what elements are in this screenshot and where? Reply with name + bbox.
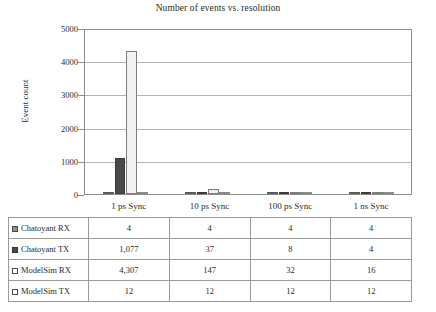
bar	[126, 51, 137, 194]
table-header-row: 1 ps Sync10 ps Sync100 ps Sync1 ns Sync	[9, 195, 412, 218]
series-legend-chatoyant-tx: Chatoyant TX	[9, 239, 89, 260]
bar	[267, 192, 278, 194]
table-cell: 147	[169, 260, 250, 281]
bar	[349, 192, 360, 194]
table-row: ModelSim RX4,3071473216	[9, 260, 412, 281]
series-label: Chatoyant RX	[21, 223, 70, 233]
bar-group	[167, 30, 249, 194]
y-tick-label: 5000	[32, 24, 78, 34]
bar	[115, 158, 126, 194]
bar	[208, 189, 219, 194]
table-cell: 4	[331, 239, 412, 260]
series-legend-chatoyant-rx: Chatoyant RX	[9, 218, 89, 239]
chart-figure: Number of events vs. resolution Event co…	[0, 0, 436, 312]
table-cell: 37	[169, 239, 250, 260]
bar	[219, 192, 230, 194]
table-cell: 12	[89, 281, 170, 302]
table-cell: 12	[331, 281, 412, 302]
bar	[301, 192, 312, 194]
bar	[103, 192, 114, 194]
series-label: Chatoyant TX	[21, 244, 69, 254]
bar	[279, 192, 290, 194]
bar-group	[85, 30, 167, 194]
legend-swatch-icon	[12, 226, 18, 232]
table-cell: 12	[250, 281, 331, 302]
legend-swatch-icon	[12, 289, 18, 295]
bar	[372, 192, 383, 194]
category-header-10-ps-sync: 10 ps Sync	[169, 195, 250, 218]
y-axis-title: Event count	[20, 56, 30, 146]
y-tick-label: 3000	[32, 90, 78, 100]
y-tick-label: 1000	[32, 157, 78, 167]
bar-group	[331, 30, 413, 194]
category-header-1-ps-sync: 1 ps Sync	[89, 195, 170, 218]
legend-swatch-icon	[12, 268, 18, 274]
chart-title: Number of events vs. resolution	[0, 3, 436, 13]
table-cell: 4	[331, 218, 412, 239]
bar	[361, 192, 372, 194]
table-corner-cell	[9, 195, 89, 218]
bar	[290, 192, 301, 194]
series-label: ModelSim TX	[21, 286, 70, 296]
bar	[185, 192, 196, 194]
table-row: Chatoyant RX4444	[9, 218, 412, 239]
y-tick-label: 4000	[32, 57, 78, 67]
table-row: Chatoyant TX1,0773784	[9, 239, 412, 260]
plot-area	[84, 29, 412, 195]
series-legend-modelsim-rx: ModelSim RX	[9, 260, 89, 281]
table-cell: 32	[250, 260, 331, 281]
table-cell: 1,077	[89, 239, 170, 260]
legend-swatch-icon	[12, 247, 18, 253]
series-legend-modelsim-tx: ModelSim TX	[9, 281, 89, 302]
bar	[383, 192, 394, 194]
category-header-100-ps-sync: 100 ps Sync	[250, 195, 331, 218]
table-cell: 4	[89, 218, 170, 239]
bar	[197, 192, 208, 194]
bar	[137, 192, 148, 194]
category-header-1-ns-sync: 1 ns Sync	[331, 195, 412, 218]
table-cell: 4	[169, 218, 250, 239]
table-cell: 8	[250, 239, 331, 260]
series-label: ModelSim RX	[21, 265, 71, 275]
data-table: 1 ps Sync10 ps Sync100 ps Sync1 ns SyncC…	[8, 195, 412, 302]
table-cell: 12	[169, 281, 250, 302]
table-row: ModelSim TX12121212	[9, 281, 412, 302]
table-cell: 4,307	[89, 260, 170, 281]
bar-group	[249, 30, 331, 194]
table-cell: 16	[331, 260, 412, 281]
table-cell: 4	[250, 218, 331, 239]
y-tick-label: 2000	[32, 124, 78, 134]
